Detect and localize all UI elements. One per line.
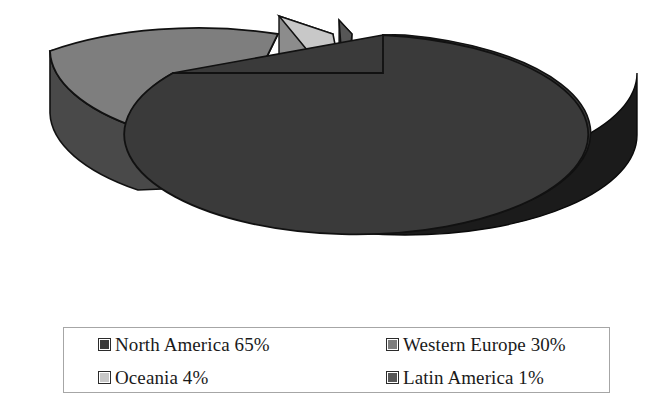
legend-grid: North America 65% Western Europe 30% Oce… [64,328,609,392]
pie-chart-figure: North America 65% Western Europe 30% Oce… [0,0,663,410]
legend-label-latin-america: Latin America 1% [403,368,544,387]
legend-swatch-latin-america [386,371,399,384]
legend-item-north-america[interactable]: North America 65% [64,335,364,354]
legend-label-western-europe: Western Europe 30% [403,335,566,354]
legend-label-north-america: North America 65% [115,335,270,354]
legend-label-oceania: Oceania 4% [115,368,208,387]
chart-plot-area [0,0,663,300]
legend-item-oceania[interactable]: Oceania 4% [64,368,364,387]
legend-item-latin-america[interactable]: Latin America 1% [364,368,611,387]
pie-3d-svg [0,0,663,300]
legend-item-western-europe[interactable]: Western Europe 30% [364,335,611,354]
chart-legend: North America 65% Western Europe 30% Oce… [63,327,610,393]
legend-swatch-oceania [98,371,111,384]
legend-swatch-north-america [98,338,111,351]
legend-swatch-western-europe [386,338,399,351]
